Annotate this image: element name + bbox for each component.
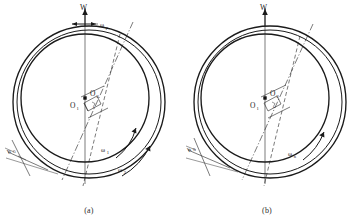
outer-ring-outer-edge	[194, 26, 346, 178]
gap-extension-line	[194, 138, 210, 176]
detail-extension-bottom	[268, 107, 290, 118]
label-omega-p-symbol: ω	[100, 21, 104, 28]
eccentricity-detail-box	[261, 85, 290, 118]
omega-n-arc-arrow	[303, 132, 324, 160]
panel-a: O 1 O 2 e W ω p	[0, 0, 178, 219]
label-h0-subscript: 0	[12, 149, 17, 155]
omega-n-arc	[303, 132, 324, 160]
omega-p-arrowhead-left	[72, 22, 77, 26]
label-omega1-subscript: 1	[107, 150, 110, 155]
label-omega-1: ω 1	[101, 146, 110, 155]
diagram-b-canvas: O 1 O 2 e W h 0	[178, 0, 356, 219]
label-omega-n-subscript: n	[294, 154, 297, 159]
figure-container: O 1 O 2 e W ω p	[0, 0, 356, 219]
label-o1-letter: O	[70, 101, 76, 110]
label-w-load: W	[80, 3, 88, 12]
center-o1-marker	[263, 96, 266, 99]
label-omega2-symbol: ω	[118, 166, 122, 173]
diagram-a-canvas: O 1 O 2 e W ω p	[0, 0, 178, 219]
label-omega-n-symbol: ω	[288, 150, 292, 157]
label-h0-subscript: 0	[192, 147, 197, 153]
inclined-centerline-2	[83, 34, 120, 186]
label-eccentricity: e	[273, 104, 275, 109]
label-o2: O 2	[270, 89, 280, 99]
caption-a: (a)	[0, 206, 178, 215]
panel-b: O 1 O 2 e W h 0	[178, 0, 356, 219]
omega1-arc	[116, 128, 136, 158]
omega1-arc-arrow	[116, 128, 136, 158]
label-o1: O 1	[250, 101, 260, 111]
label-o2-letter: O	[90, 89, 96, 98]
label-o2-subscript: 2	[97, 94, 100, 99]
gap-dimension-group	[186, 138, 238, 176]
label-o2: O 2	[90, 89, 100, 99]
label-o1-subscript: 1	[257, 106, 260, 111]
center-o1-marker	[83, 96, 86, 99]
omega-p-arrowhead	[91, 22, 96, 26]
wedge-tangent-line	[6, 158, 58, 174]
caption-b: (b)	[178, 206, 356, 215]
label-omega-p: ω p	[100, 21, 109, 30]
gap-dimension-line	[188, 150, 230, 168]
label-o1-subscript: 1	[77, 106, 80, 111]
omega1-arrowhead	[132, 128, 137, 134]
label-o1: O 1	[70, 101, 80, 111]
outer-ring-inner-edge	[198, 30, 342, 174]
outer-ring-inner-edge	[17, 30, 161, 174]
eccentricity-box-left-edge	[84, 103, 88, 111]
label-o1-letter: O	[250, 101, 256, 110]
label-omega-p-subscript: p	[106, 25, 109, 30]
label-o2-subscript: 2	[277, 94, 280, 99]
label-w-load: W	[260, 3, 268, 12]
label-o2-letter: O	[270, 89, 276, 98]
label-omega1-symbol: ω	[101, 146, 105, 153]
outer-ring-outer-edge	[13, 26, 165, 178]
label-eccentricity: e	[93, 104, 95, 109]
